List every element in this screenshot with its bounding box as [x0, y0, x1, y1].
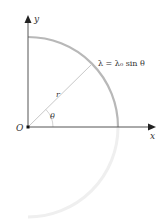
- equation-label: λ = λ₀ sin θ: [98, 59, 145, 68]
- x-axis-arrow-icon: [148, 124, 156, 131]
- y-axis-label: y: [33, 14, 40, 24]
- faded-lower-arc: [28, 127, 118, 217]
- y-axis-arrow-icon: [25, 15, 32, 23]
- angle-label: θ: [50, 112, 55, 121]
- origin-point: [27, 126, 30, 129]
- x-axis-label: x: [150, 131, 155, 141]
- radius-line: [28, 64, 92, 127]
- origin-label: O: [16, 123, 24, 133]
- polar-diagram: y x O r θ λ = λ₀ sin θ: [0, 0, 162, 219]
- radius-label: r: [56, 90, 61, 99]
